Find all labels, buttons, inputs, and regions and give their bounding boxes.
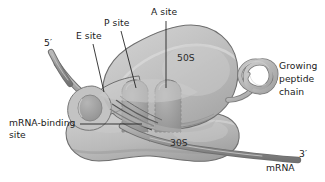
growing-peptide-chain	[240, 61, 276, 92]
label-growing-peptide-line3: chain	[279, 87, 304, 98]
leader-e-site	[93, 44, 104, 92]
mrna-five-prime-tail	[51, 52, 70, 84]
label-large-subunit-50s: 50S	[177, 53, 195, 64]
ribosome-figure-svg	[0, 0, 325, 182]
label-a-site: A site	[151, 7, 177, 18]
label-e-site: E site	[76, 31, 102, 42]
ribosome-diagram: A site P site E site 5′ 3′ mRNA-binding …	[0, 0, 325, 182]
label-five-prime: 5′	[44, 38, 52, 49]
label-growing-peptide-line2: peptide	[279, 74, 314, 85]
label-mrna-binding-site-line1: mRNA-binding	[9, 118, 75, 129]
label-mrna: mRNA	[266, 163, 295, 174]
label-three-prime: 3′	[299, 149, 307, 160]
label-small-subunit-30s: 30S	[170, 138, 188, 149]
label-p-site: P site	[104, 18, 129, 29]
label-growing-peptide-line1: Growing	[279, 61, 317, 72]
label-mrna-binding-site-line2: site	[9, 130, 26, 141]
